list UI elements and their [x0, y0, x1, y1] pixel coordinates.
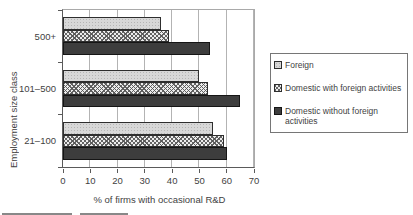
y-tick-labels: 500+101–50021–100 [0, 10, 57, 167]
x-tickmark [63, 169, 64, 173]
x-axis-title: % of firms with occasional R&D [62, 194, 257, 205]
bar-chart: Employment size class 500+101–50021–100 … [0, 0, 413, 215]
bar-series1-cat1 [63, 82, 208, 95]
bar-series1-cat0 [63, 30, 169, 43]
legend-item: Foreign [274, 60, 404, 70]
gridline-70 [253, 10, 254, 167]
y-tickmark [58, 62, 62, 63]
legend-label: Domestic with foreign activities [285, 83, 401, 93]
y-tickmark [58, 167, 62, 168]
x-tickmark [117, 169, 118, 173]
y-tick-label: 21–100 [0, 115, 56, 167]
bar-series0-cat2 [63, 122, 213, 135]
y-tickmark [58, 10, 62, 11]
y-tick-label: 101–500 [0, 62, 56, 114]
x-tick-label: 0 [60, 175, 65, 186]
legend-label: Domestic without foreign activities [285, 106, 378, 126]
legend: ForeignDomestic with foreign activitiesD… [270, 53, 408, 133]
bar-series0-cat0 [63, 17, 161, 30]
x-tickmark [199, 169, 200, 173]
crosshatch-legend-swatch-icon [274, 84, 282, 92]
dark-solid-legend-swatch-icon [274, 107, 282, 115]
plot-area [62, 9, 255, 168]
gridline-60 [226, 10, 227, 167]
cropped-text-fragment [2, 213, 72, 215]
x-tick-label: 60 [221, 175, 232, 186]
x-tick-label: 20 [112, 175, 123, 186]
legend-label: Foreign [285, 60, 314, 70]
x-tick-label: 50 [194, 175, 205, 186]
legend-item: Domestic with foreign activities [274, 83, 404, 93]
y-tick-label: 500+ [0, 10, 56, 62]
y-tickmark [58, 114, 62, 115]
bar-series2-cat2 [63, 147, 227, 160]
light-dotted-legend-swatch-icon [274, 61, 282, 69]
x-axis: 010203040506070 [63, 168, 254, 192]
y-axis-ticks [58, 10, 62, 169]
x-tick-label: 30 [140, 175, 151, 186]
x-tickmark [226, 169, 227, 173]
x-tick-label: 40 [167, 175, 178, 186]
x-tick-label: 10 [85, 175, 96, 186]
x-tick-label: 70 [249, 175, 260, 186]
x-tickmark [172, 169, 173, 173]
x-tickmark [254, 169, 255, 173]
bar-series2-cat0 [63, 42, 210, 55]
x-tickmark [144, 169, 145, 173]
x-tickmark [90, 169, 91, 173]
cropped-text-fragment [80, 213, 128, 215]
bar-series1-cat2 [63, 135, 224, 148]
bar-series2-cat1 [63, 95, 240, 108]
legend-item: Domestic without foreign activities [274, 106, 404, 126]
bar-series0-cat1 [63, 70, 199, 83]
